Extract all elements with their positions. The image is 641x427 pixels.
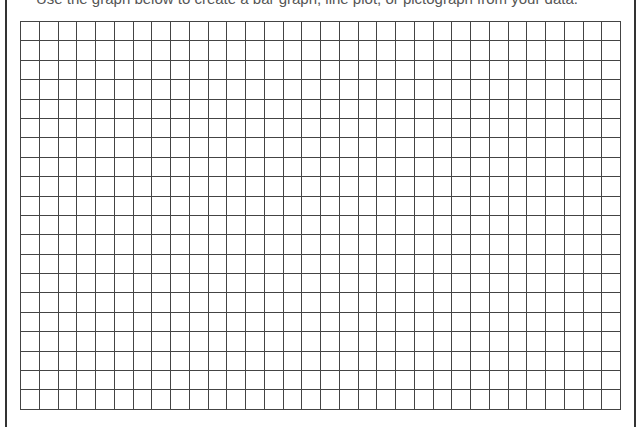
grid-cell	[245, 21, 264, 40]
grid-cell	[564, 137, 583, 156]
grid-cell	[114, 60, 133, 79]
grid-cell	[451, 60, 470, 79]
grid-cell	[376, 370, 395, 389]
grid-cell	[470, 118, 489, 137]
grid-cell	[583, 21, 602, 40]
grid-cell	[20, 176, 39, 195]
grid-cell	[489, 118, 508, 137]
grid-cell	[414, 389, 433, 408]
grid-cell	[358, 21, 377, 40]
grid-cell	[58, 176, 77, 195]
grid-cell	[245, 137, 264, 156]
grid-cell	[583, 215, 602, 234]
grid-cell	[489, 273, 508, 292]
grid-cell	[583, 292, 602, 311]
grid-cell	[114, 292, 133, 311]
grid-cell	[133, 273, 152, 292]
grid-cell	[339, 234, 358, 253]
grid-cell	[395, 157, 414, 176]
grid-cell	[433, 331, 452, 350]
grid-cell	[39, 389, 58, 408]
grid-cell	[564, 157, 583, 176]
grid-cell	[208, 60, 227, 79]
grid-cell	[208, 331, 227, 350]
grid-cell	[320, 99, 339, 118]
grid-cell	[20, 273, 39, 292]
grid-cell	[358, 389, 377, 408]
grid-cell	[283, 292, 302, 311]
grid-cell	[114, 176, 133, 195]
grid-cell	[95, 21, 114, 40]
grid-cell	[245, 254, 264, 273]
grid-cell	[245, 292, 264, 311]
grid-cell	[58, 351, 77, 370]
grid-cell	[95, 60, 114, 79]
grid-cell	[451, 351, 470, 370]
grid-cell	[376, 79, 395, 98]
grid-cell	[508, 60, 527, 79]
grid-cell	[395, 176, 414, 195]
grid-cell	[433, 21, 452, 40]
grid-cell	[133, 215, 152, 234]
grid-cell	[226, 389, 245, 408]
grid-cell	[114, 79, 133, 98]
grid-cell	[264, 79, 283, 98]
grid-cell	[264, 40, 283, 59]
grid-cell	[433, 118, 452, 137]
grid-cell	[245, 351, 264, 370]
grid-cell	[489, 99, 508, 118]
grid-cell	[433, 137, 452, 156]
grid-cell	[376, 273, 395, 292]
grid-cell	[508, 79, 527, 98]
grid-cell	[545, 234, 564, 253]
grid-cell	[170, 40, 189, 59]
grid-cell	[208, 389, 227, 408]
grid-cell	[226, 176, 245, 195]
grid-cell	[508, 273, 527, 292]
grid-cell	[95, 40, 114, 59]
grid-cell	[283, 254, 302, 273]
grid-cell	[226, 234, 245, 253]
grid-cell	[339, 99, 358, 118]
grid-cell	[189, 60, 208, 79]
grid-cell	[451, 389, 470, 408]
grid-cell	[376, 254, 395, 273]
grid-cell	[376, 21, 395, 40]
grid-cell	[189, 292, 208, 311]
grid-cell	[358, 234, 377, 253]
grid-cell	[451, 273, 470, 292]
grid-cell	[170, 351, 189, 370]
grid-cell	[545, 40, 564, 59]
grid-cell	[133, 292, 152, 311]
grid-cell	[95, 118, 114, 137]
grid-cell	[170, 370, 189, 389]
grid-cell	[264, 60, 283, 79]
grid-cell	[170, 234, 189, 253]
grid-cell	[433, 370, 452, 389]
grid-cell	[170, 137, 189, 156]
grid-cell	[470, 273, 489, 292]
grid-cell	[170, 292, 189, 311]
grid-cell	[95, 254, 114, 273]
grid-cell	[226, 118, 245, 137]
grid-cell	[601, 312, 620, 331]
grid-cell	[226, 292, 245, 311]
grid-cell	[414, 118, 433, 137]
grid-cell	[395, 99, 414, 118]
grid-cell	[564, 370, 583, 389]
grid-cell	[76, 157, 95, 176]
grid-cell	[320, 292, 339, 311]
grid-cell	[601, 99, 620, 118]
grid-cell	[283, 273, 302, 292]
grid-cell	[264, 389, 283, 408]
grid-cell	[339, 254, 358, 273]
grid-cell	[358, 118, 377, 137]
grid-cell	[170, 273, 189, 292]
grid-cell	[264, 157, 283, 176]
grid-cell	[208, 99, 227, 118]
grid-cell	[395, 389, 414, 408]
grid-cell	[451, 118, 470, 137]
grid-cell	[564, 196, 583, 215]
grid-cell	[451, 331, 470, 350]
grid-cell	[339, 79, 358, 98]
